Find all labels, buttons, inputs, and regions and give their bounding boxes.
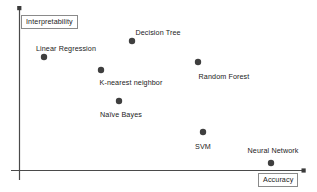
data-point[interactable] [98,67,104,73]
data-point-label: Naïve Bayes [100,110,142,119]
y-axis-title: Interpretability [21,15,78,29]
x-axis-arrow-icon [302,168,306,172]
scatter-chart: Interpretability Accuracy Linear Regress… [0,0,317,192]
data-point[interactable] [195,59,201,65]
data-points-group [41,38,274,166]
y-axis-arrow-icon [17,6,21,10]
data-point-label: SVM [195,142,211,151]
data-point[interactable] [129,38,135,44]
data-point[interactable] [200,129,206,135]
data-point[interactable] [41,54,47,60]
data-point-label: Linear Regression [36,44,96,53]
data-point-label: Decision Tree [135,28,180,37]
x-axis-title: Accuracy [258,173,298,187]
data-point-label: K-nearest neighbor [100,78,163,87]
data-point[interactable] [116,98,122,104]
data-point[interactable] [268,160,274,166]
data-point-label: Random Forest [199,72,250,81]
data-point-label: Neural Network [248,146,299,155]
